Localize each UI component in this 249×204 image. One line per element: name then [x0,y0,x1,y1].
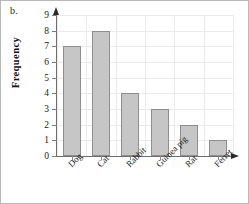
bar-chart-figure: b. Frequency 0123456789 DogCatRabbitGuin… [0,0,249,204]
x-axis-tick-mark [72,156,73,160]
y-axis-tick-mark [52,46,57,47]
arrow-up-icon [53,7,59,15]
y-axis-tick-mark [52,125,57,126]
bar-dog [63,46,81,156]
y-axis-tick-mark [52,31,57,32]
bar-cat [92,31,110,156]
y-axis-tick-label: 1 [7,135,49,145]
y-axis-tick-mark [52,109,57,110]
y-axis-tick-label: 5 [7,73,49,83]
x-axis-tick-mark [101,156,102,160]
y-axis-tick-label: 7 [7,41,49,51]
gridline-vertical [145,15,146,156]
bar-rabbit [121,93,139,156]
gridline-vertical [204,15,205,156]
y-axis-tick-mark [52,15,57,16]
y-axis-tick-labels: 0123456789 [1,1,49,204]
gridline-vertical [116,15,117,156]
gridline-vertical [233,15,234,156]
y-axis-line [56,13,57,156]
x-axis-tick-mark [218,156,219,160]
y-axis-tick-mark [52,93,57,94]
x-axis-tick-mark [160,156,161,160]
y-axis-tick-label: 8 [7,26,49,36]
y-axis-tick-label: 9 [7,10,49,20]
y-axis-tick-label: 6 [7,57,49,67]
y-axis-tick-label: 4 [7,88,49,98]
x-axis-tick-mark [130,156,131,160]
y-axis-tick-label: 2 [7,120,49,130]
y-axis-tick-label: 0 [7,151,49,161]
gridline-vertical [86,15,87,156]
y-axis-tick-label: 3 [7,104,49,114]
gridline-vertical [174,15,175,156]
y-axis-tick-mark [52,78,57,79]
plot-area [57,15,233,156]
y-axis-tick-mark [52,156,57,157]
y-axis-tick-mark [52,62,57,63]
x-axis-tick-mark [189,156,190,160]
y-axis-tick-mark [52,140,57,141]
